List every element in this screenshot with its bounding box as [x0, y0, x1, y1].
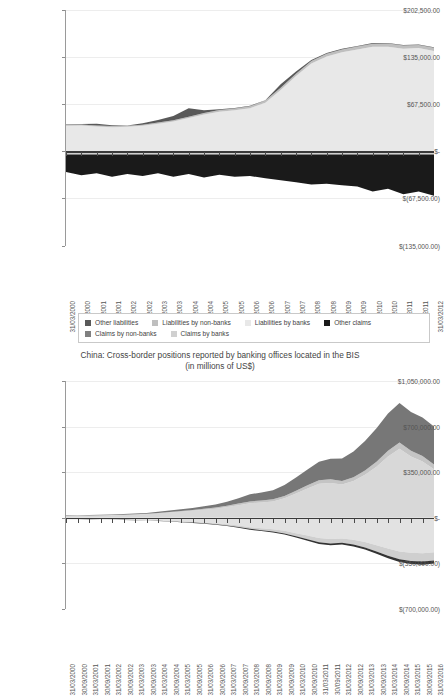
- x-tick: [66, 152, 67, 156]
- x-tick: [66, 519, 67, 523]
- legend-item: Other claims: [324, 319, 371, 327]
- x-tick: [296, 519, 297, 523]
- legend-label: Claims by non-banks: [95, 330, 157, 338]
- x-tick: [181, 519, 182, 523]
- x-tick: [250, 519, 251, 523]
- x-tick: [403, 152, 404, 156]
- y-tick: [62, 427, 65, 428]
- y-tick: [62, 10, 65, 11]
- x-tick: [170, 519, 171, 523]
- x-tick: [296, 152, 297, 156]
- legend-label: Other claims: [334, 319, 371, 327]
- series-layer: [66, 10, 434, 246]
- legend-item: Claims by non-banks: [85, 330, 157, 338]
- x-axis-label: 30/09/2015: [426, 664, 433, 696]
- legend-row: Other liabilitiesLiabilities by non-bank…: [85, 317, 423, 328]
- chart-top: (in millions of US$) $202,500.00$135,000…: [0, 0, 440, 298]
- x-tick: [331, 519, 332, 523]
- x-axis-label: 30/09/2011: [334, 664, 341, 695]
- x-axis-label: 30/09/2001: [104, 664, 111, 696]
- x-axis-label: 31/03/2015: [414, 664, 421, 696]
- chart-bottom-subtitle: (in millions of US$): [0, 361, 440, 372]
- x-tick: [158, 519, 159, 523]
- x-axis-ticks: [66, 519, 434, 523]
- x-axis-label: 30/09/2007: [242, 664, 249, 696]
- legend-item: Other liabilities: [85, 319, 138, 327]
- legend-item: Liabilities by non-banks: [152, 319, 231, 327]
- legend-row: Claims by non-banksClaims by banks: [85, 328, 423, 339]
- y-tick: [62, 472, 65, 473]
- chart-legend: Other liabilitiesLiabilities by non-bank…: [78, 313, 430, 343]
- x-tick: [423, 519, 424, 523]
- x-tick: [189, 152, 190, 156]
- x-tick: [173, 152, 174, 156]
- x-tick: [193, 519, 194, 523]
- y-axis-label: $135,000.00: [379, 53, 440, 60]
- x-axis-label: 30/09/2004: [173, 664, 180, 696]
- x-tick: [97, 152, 98, 156]
- x-axis-label: 30/09/2008: [265, 664, 272, 696]
- x-axis-label: 31/03/2000: [69, 301, 76, 333]
- x-tick: [311, 152, 312, 156]
- y-tick: [62, 381, 65, 382]
- x-axis-ticks: [66, 152, 434, 156]
- y-axis-label: $(135,000.00): [379, 242, 440, 249]
- legend-label: Liabilities by banks: [255, 319, 310, 327]
- y-axis-label: $700,000.00: [379, 423, 440, 430]
- x-tick: [285, 519, 286, 523]
- y-axis-line: [65, 10, 66, 246]
- x-tick: [250, 152, 251, 156]
- x-axis-label: 31/03/2012: [437, 301, 444, 333]
- y-axis-label: $(67,500.00): [379, 195, 440, 202]
- x-tick: [327, 152, 328, 156]
- chart-bottom-title-line1: China: Cross-border positions reported b…: [81, 350, 360, 360]
- x-tick: [342, 152, 343, 156]
- x-tick: [112, 519, 113, 523]
- series-area: [66, 46, 434, 151]
- x-axis-label: 31/03/2008: [253, 664, 260, 696]
- chart-bottom-plot: $1,050,000.00$700,000.00$350,000.00$-$(3…: [0, 371, 440, 661]
- x-axis-label: 31/03/2013: [368, 664, 375, 696]
- x-axis-label: 31/03/2012: [345, 664, 352, 696]
- x-axis-label: 31/03/2007: [230, 664, 237, 696]
- x-tick: [158, 152, 159, 156]
- series-area: [66, 155, 434, 196]
- plot-area: [66, 381, 434, 609]
- x-axis-label: 30/09/2005: [196, 664, 203, 696]
- x-tick: [219, 152, 220, 156]
- x-tick: [373, 152, 374, 156]
- x-tick: [204, 152, 205, 156]
- y-axis-label: $350,000.00: [379, 469, 440, 476]
- x-tick: [147, 519, 148, 523]
- x-axis-label: 30/09/2010: [311, 664, 318, 696]
- x-axis-label: 31/03/2004: [161, 664, 168, 696]
- x-tick: [388, 519, 389, 523]
- x-tick: [112, 152, 113, 156]
- x-tick: [81, 152, 82, 156]
- y-axis-label: $67,500.00: [379, 100, 440, 107]
- x-axis-label: 30/09/2003: [150, 664, 157, 696]
- x-tick: [400, 519, 401, 523]
- x-axis-label: 30/09/2002: [127, 664, 134, 696]
- x-axis-label: 31/03/2000: [69, 664, 76, 696]
- chart-top-plot: $202,500.00$135,000.00$67,500.00$-$(67,5…: [0, 0, 440, 298]
- y-axis-label: $(350,000.00): [379, 560, 440, 567]
- y-axis-label: $(700,000.00): [379, 606, 440, 613]
- x-tick: [262, 519, 263, 523]
- x-tick: [411, 519, 412, 523]
- x-axis-label: 30/09/2012: [357, 664, 364, 696]
- x-axis-label: 30/09/2006: [219, 664, 226, 696]
- x-tick: [235, 152, 236, 156]
- y-tick: [62, 151, 65, 152]
- x-axis-label: 30/09/2013: [380, 664, 387, 696]
- x-tick: [342, 519, 343, 523]
- x-axis-label: 31/03/2016: [437, 664, 444, 696]
- x-tick: [265, 152, 266, 156]
- x-tick: [124, 519, 125, 523]
- x-axis-label: 31/03/2005: [184, 664, 191, 696]
- x-axis-label: 31/03/2003: [138, 664, 145, 696]
- x-axis-label: 31/03/2006: [207, 664, 214, 696]
- y-axis-label: $1,050,000.00: [379, 378, 440, 385]
- y-tick: [62, 518, 65, 519]
